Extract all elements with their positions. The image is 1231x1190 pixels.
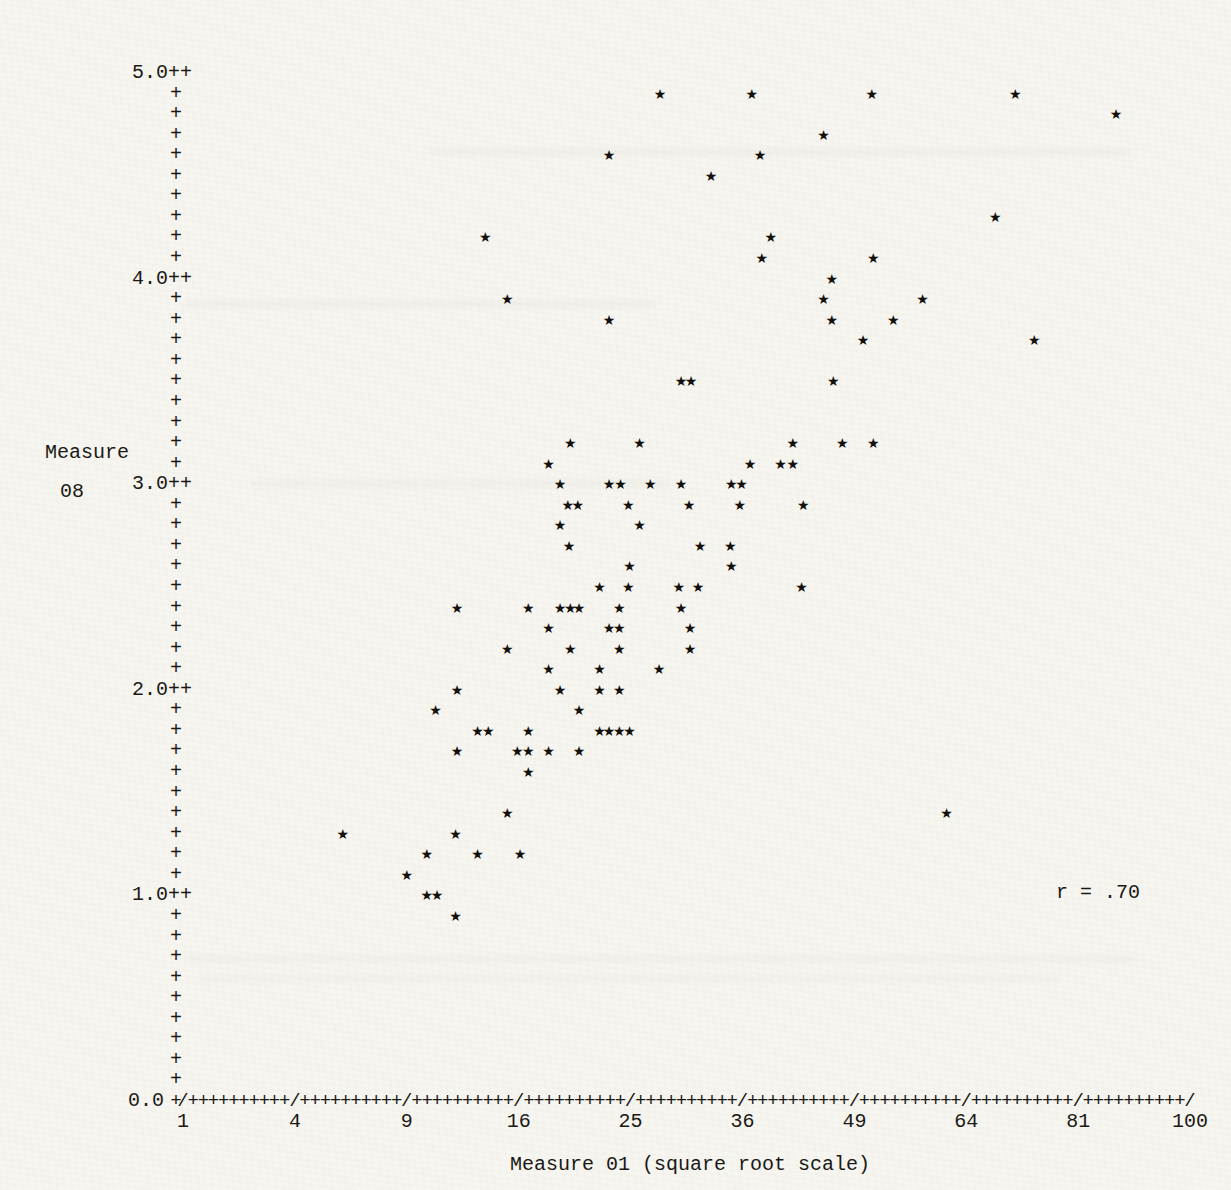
data-point: ★ [744,457,757,471]
data-point: ★ [542,621,555,635]
y-axis-tick: + [170,351,182,371]
data-point: ★ [573,601,586,615]
y-axis-tick: + [170,515,182,535]
data-point: ★ [857,333,870,347]
data-point: ★ [451,744,464,758]
y-axis-tick: + [170,1029,182,1049]
y-axis-tick: + [170,433,182,453]
data-point: ★ [705,169,718,183]
data-point: ★ [836,436,849,450]
bleed-through-artifact [430,148,1130,156]
y-axis-tick: + [170,721,182,741]
data-point: ★ [735,477,748,491]
data-point: ★ [542,662,555,676]
data-point: ★ [564,436,577,450]
data-point: ★ [774,457,787,471]
y-axis-title-line2: 08 [60,482,84,502]
data-point: ★ [571,498,584,512]
x-axis-tick-label: 1 [177,1112,189,1132]
data-point: ★ [514,847,527,861]
data-point: ★ [593,662,606,676]
data-point: ★ [916,292,929,306]
y-axis-tick: + [170,125,182,145]
data-point: ★ [451,601,464,615]
data-point: ★ [622,580,635,594]
bleed-through-artifact [200,976,1060,982]
data-point: ★ [765,230,778,244]
data-point: ★ [825,272,838,286]
data-point: ★ [989,210,1002,224]
data-point: ★ [449,909,462,923]
data-point: ★ [684,621,697,635]
y-axis-tick: + [170,947,182,967]
y-axis-tick: + [170,330,182,350]
data-point: ★ [522,724,535,738]
data-point: ★ [501,642,514,656]
y-axis-tick: + [170,104,182,124]
y-axis-tick: + [170,618,182,638]
data-point: ★ [563,539,576,553]
y-axis-tick: + [170,413,182,433]
data-point: ★ [797,498,810,512]
data-point: ★ [724,539,737,553]
x-axis-tick-label: 4 [289,1112,301,1132]
data-point: ★ [675,601,688,615]
data-point: ★ [887,313,900,327]
data-point: ★ [683,498,696,512]
y-axis-tick: + [170,207,182,227]
y-axis-tick: + [170,84,182,104]
data-point: ★ [795,580,808,594]
data-point: ★ [431,888,444,902]
y-axis-tick: + [170,1070,182,1090]
y-axis-title-line1: Measure [45,443,129,463]
x-axis-tick-label: 25 [619,1112,643,1132]
data-point: ★ [1009,87,1022,101]
data-point: ★ [675,477,688,491]
x-axis-square-mark: / [1184,1092,1195,1111]
data-point: ★ [501,292,514,306]
y-axis-tick: + [170,783,182,803]
data-point: ★ [554,518,567,532]
y-axis-tick: + [170,659,182,679]
data-point: ★ [482,724,495,738]
y-axis-tick: + [170,927,182,947]
data-point: ★ [684,642,697,656]
data-point: ★ [725,559,738,573]
data-point: ★ [692,580,705,594]
data-point: ★ [573,703,586,717]
data-point: ★ [573,744,586,758]
y-axis-tick: + [170,906,182,926]
y-axis-tick: + [170,536,182,556]
data-point: ★ [542,744,555,758]
y-axis-tick: + [170,454,182,474]
data-point: ★ [613,642,626,656]
x-axis-tick-label: 36 [730,1112,754,1132]
data-point: ★ [593,683,606,697]
data-point: ★ [449,827,462,841]
data-point: ★ [787,457,800,471]
data-point: ★ [479,230,492,244]
data-point: ★ [522,601,535,615]
y-axis-tick: + [170,1050,182,1070]
scanned-scatter-plot-page: Measure 08 0.0 Measure 01 (square root s… [0,0,1231,1190]
correlation-annotation: r = .70 [1056,883,1140,903]
x-axis-tick-label: 81 [1066,1112,1090,1132]
data-point: ★ [623,724,636,738]
data-point: ★ [653,662,666,676]
data-point: ★ [613,683,626,697]
y-axis-tick: + [170,186,182,206]
data-point: ★ [685,374,698,388]
data-point: ★ [603,313,616,327]
y-axis-tick: + [170,865,182,885]
y-axis-tick: + [170,166,182,186]
data-point: ★ [429,703,442,717]
x-axis-tick-label: 49 [842,1112,866,1132]
data-point: ★ [756,251,769,265]
y-axis-tick: + [170,598,182,618]
y-axis-tick: + [170,227,182,247]
data-point: ★ [866,87,879,101]
data-point: ★ [673,580,686,594]
y-axis-tick: + [170,844,182,864]
x-axis-tick-label: 9 [401,1112,413,1132]
y-axis-tick-label: 1.0++ [132,885,192,905]
